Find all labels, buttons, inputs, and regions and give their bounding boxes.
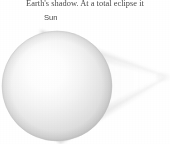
- sun-sphere-limb-shading: [2, 31, 112, 141]
- sun-shadow-figure: Earth's shadow. At a total eclipse it Su…: [0, 0, 170, 144]
- sun-sphere-group: [2, 31, 112, 141]
- cone-apex-point: [156, 73, 170, 81]
- figure-caption: Earth's shadow. At a total eclipse it: [0, 0, 170, 8]
- sun-label: Sun: [44, 13, 58, 22]
- shadow-cone-illustration: [0, 0, 170, 144]
